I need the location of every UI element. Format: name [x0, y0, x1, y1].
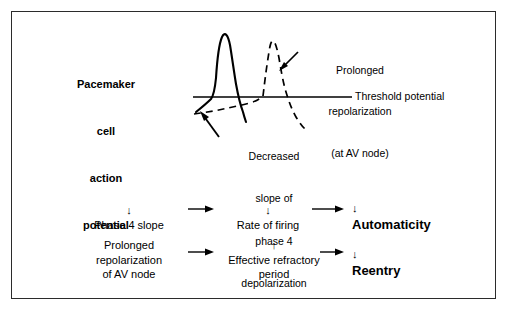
flow-row2-cell2-text: Effective refractory — [216, 253, 332, 268]
up-arrow-icon: ↑ — [271, 239, 277, 251]
panel-title-line-2: cell — [52, 124, 160, 140]
decreased-note-line-1: Decreased — [222, 149, 326, 163]
flow-arrow-row1-a — [188, 205, 214, 212]
flow-row2-cell2-line-1: ↑ Effective refractory — [216, 238, 332, 267]
flow-row2-cell1-line-3: of AV node — [74, 267, 184, 282]
down-arrow-icon: ↓ — [352, 202, 358, 214]
flow-row2-outcome-line-1: ↓ Reentry — [352, 245, 502, 280]
flow-row2-cell2: ↑ Effective refractory period — [216, 238, 332, 282]
panel-title-line-1: Pacemaker — [52, 77, 160, 93]
flow-row2-cell1-line-2: repolarization — [74, 253, 184, 268]
prolonged-repolarization-pointer-arrow — [279, 52, 298, 71]
flow-row1-cell2-line-1: ↓ Rate of firing — [216, 203, 320, 232]
flow-row1-cell2-text: Rate of firing — [216, 218, 320, 233]
threshold-potential-label: Threshold potential — [355, 90, 444, 102]
down-arrow-icon: ↓ — [265, 204, 271, 216]
prolonged-repolarization-curve — [263, 41, 305, 129]
panel-title-line-3: action — [52, 171, 160, 187]
flow-row2-outcome-text: Reentry — [352, 262, 502, 279]
flow-row1-outcome-text: Automaticity — [352, 216, 502, 233]
prolonged-note-line-1: Prolonged — [300, 64, 420, 78]
flow-arrow-row2-a — [188, 248, 214, 255]
flow-row1-cell1-line-1: ↓Phase 4 slope — [74, 203, 184, 232]
decreased-slope-pointer-arrow — [200, 111, 219, 137]
down-arrow-icon: ↓ — [126, 204, 132, 216]
flow-row1-cell2: ↓ Rate of firing — [216, 203, 320, 232]
flow-row2-outcome: ↓ Reentry — [352, 245, 502, 280]
flow-row1-outcome: ↓ Automaticity — [352, 199, 502, 234]
figure-root: Pacemaker cell action potential Prolonge… — [0, 0, 513, 313]
flow-row1-cell1-text: Phase 4 slope — [74, 218, 184, 233]
flow-row1-cell1: ↓Phase 4 slope — [74, 203, 184, 232]
prolonged-note-line-2: repolarization — [300, 105, 420, 119]
flow-row2-cell2-line-2: period — [216, 267, 332, 282]
down-arrow-icon: ↓ — [352, 248, 358, 260]
flow-row2-cell1: Prolonged repolarization of AV node — [74, 238, 184, 282]
flow-row1-outcome-line-1: ↓ Automaticity — [352, 199, 502, 234]
flow-row2-cell1-line-1: Prolonged — [74, 238, 184, 253]
